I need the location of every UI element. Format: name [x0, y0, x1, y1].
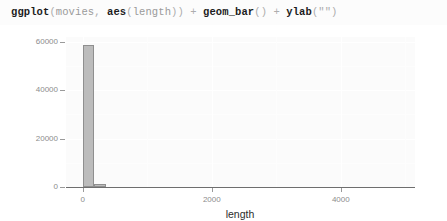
code-token-punct-7: )) +	[171, 6, 203, 18]
x-tick-mark	[83, 188, 84, 192]
plot-panel	[66, 37, 415, 187]
code-token-punct-9: () +	[254, 6, 286, 18]
code-token-fn-4: aes	[107, 6, 126, 18]
x-tick-mark	[212, 188, 213, 192]
code-token-punct-11: ("")	[312, 6, 338, 18]
bar-0	[83, 45, 95, 187]
gridline-major-y	[66, 139, 415, 140]
code-token-arg-6: length	[133, 6, 171, 18]
code-token-fn-8: geom_bar	[203, 6, 254, 18]
x-tick-label: 0	[81, 195, 85, 204]
code-token-fn-10: ylab	[286, 6, 312, 18]
y-tick-mark	[60, 139, 65, 140]
gridline-minor-y	[66, 66, 415, 67]
x-tick-mark	[341, 188, 342, 192]
gridline-major-y	[66, 42, 415, 43]
x-tick-label: 2000	[203, 195, 221, 204]
gridline-major-y	[66, 90, 415, 91]
y-tick-mark	[60, 187, 65, 188]
y-tick-label: 40000	[36, 85, 58, 94]
plot-figure: length 0200004000060000020004000	[0, 25, 447, 221]
gridline-major-x	[341, 37, 342, 187]
gridline-minor-y	[66, 114, 415, 115]
gridline-minor-x	[147, 37, 148, 187]
gridline-minor-x	[276, 37, 277, 187]
y-tick-label: 0	[54, 182, 58, 191]
code-token-arg-2: movies	[56, 6, 94, 18]
gridline-minor-x	[405, 37, 406, 187]
y-tick-label: 20000	[36, 134, 58, 143]
y-tick-label: 60000	[36, 37, 58, 46]
x-tick-label: 4000	[332, 195, 350, 204]
figure-page: ggplot(movies, aes(length)) + geom_bar()…	[0, 0, 447, 221]
gridline-major-x	[212, 37, 213, 187]
code-token-punct-3: ,	[94, 6, 107, 18]
gridline-minor-y	[66, 163, 415, 164]
code-block: ggplot(movies, aes(length)) + geom_bar()…	[0, 0, 447, 25]
code-token-fn-0: ggplot	[11, 6, 49, 18]
y-tick-mark	[60, 42, 65, 43]
y-tick-mark	[60, 90, 65, 91]
x-axis-title-label: length	[226, 208, 255, 220]
x-axis-line	[66, 187, 415, 188]
